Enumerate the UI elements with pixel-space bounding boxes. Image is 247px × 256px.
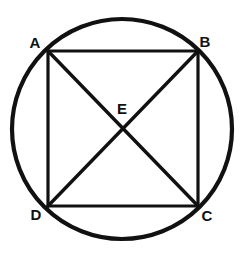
vertex-label-b: B <box>200 34 211 49</box>
vertex-label-d: D <box>31 207 42 222</box>
vertex-label-e: E <box>117 101 127 116</box>
vertex-label-a: A <box>30 35 41 50</box>
vertex-label-c: C <box>202 208 213 223</box>
geometry-figure: A B C D E <box>0 0 247 256</box>
